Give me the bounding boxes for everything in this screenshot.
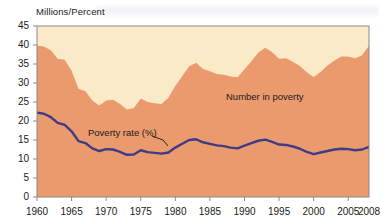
x-tick-2005: 2005: [337, 207, 359, 217]
x-tick-1975: 1975: [130, 207, 152, 217]
y-tick-20: 20: [7, 116, 29, 126]
y-tick-5: 5: [7, 173, 29, 183]
chart-plot-area: [0, 0, 382, 224]
x-tick-1990: 1990: [233, 207, 255, 217]
x-tick-1965: 1965: [60, 207, 82, 217]
y-tick-15: 15: [7, 135, 29, 145]
y-tick-25: 25: [7, 97, 29, 107]
x-tick-2000: 2000: [303, 207, 325, 217]
y-tick-40: 40: [7, 40, 29, 50]
y-tick-35: 35: [7, 59, 29, 69]
y-tick-45: 45: [7, 21, 29, 31]
x-tick-1985: 1985: [199, 207, 221, 217]
x-axis-tick-marks: [37, 197, 348, 201]
y-axis-tick-marks: [33, 26, 37, 197]
x-tick-1980: 1980: [164, 207, 186, 217]
x-tick-1995: 1995: [268, 207, 290, 217]
annotation-poverty-rate: Poverty rate (%): [88, 128, 157, 138]
x-tick-1960: 1960: [26, 207, 48, 217]
poverty-chart-figure: Millions/Percent 051015202530354045 1960…: [0, 0, 382, 224]
y-tick-0: 0: [7, 192, 29, 202]
annotation-number-in-poverty: Number in poverty: [226, 92, 304, 102]
x-tick-2008: 2008: [358, 207, 380, 217]
y-tick-10: 10: [7, 154, 29, 164]
x-tick-1970: 1970: [95, 207, 117, 217]
y-tick-30: 30: [7, 78, 29, 88]
